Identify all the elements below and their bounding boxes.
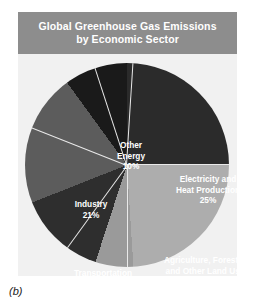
figure-caption: (b) (9, 285, 22, 297)
chart-title-line-1: Global Greenhouse Gas Emissions (38, 20, 216, 33)
slice-name-line-1: Transportation (63, 268, 143, 279)
slice-divider (127, 165, 128, 267)
slice-name-line-2: Energy (109, 151, 153, 162)
pie-chart: Electricity and Heat Production 25% Agri… (25, 63, 229, 267)
slice-value: 21% (63, 210, 119, 221)
slice-name-line-1: Industry (63, 199, 119, 210)
slice-label-electricity-and-heat-production: Electricity and Heat Production 25% (162, 174, 254, 206)
slice-name-line-1: Agriculture, Forestry (153, 255, 255, 266)
slice-value: 14% (63, 279, 143, 290)
chart-title-line-2: by Economic Sector (76, 33, 179, 46)
slice-value: 24% (153, 276, 255, 287)
slice-label-industry: Industry 21% (63, 199, 119, 220)
slice-label-other-energy: Other Energy 10% (109, 140, 153, 172)
slice-label-agriculture-forestry-and-other-land-use: Agriculture, Forestry and Other Land Use… (153, 255, 255, 287)
chart-title-banner: Global Greenhouse Gas Emissions by Econo… (18, 12, 237, 54)
slice-name-line-1: Electricity and (162, 174, 254, 185)
slice-value: 25% (162, 195, 254, 206)
slice-name-line-1: Other (109, 140, 153, 151)
figure-pie-chart: Global Greenhouse Gas Emissions by Econo… (0, 0, 255, 304)
slice-value: 10% (109, 161, 153, 172)
slice-name-line-2: Heat Production (162, 185, 254, 196)
slice-name-line-2: and Other Land Use (153, 266, 255, 277)
slice-label-transportation: Transportation 14% (63, 268, 143, 289)
